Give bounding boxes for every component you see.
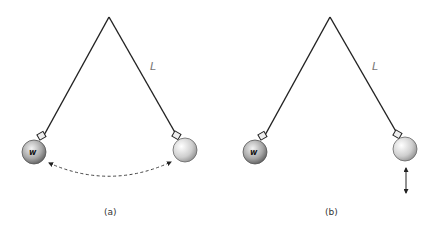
- bob-displaced: [173, 138, 197, 162]
- panel-caption: (b): [325, 207, 338, 217]
- bob-connector: [393, 130, 402, 139]
- bob-connector: [172, 131, 181, 140]
- length-label: L: [372, 60, 378, 73]
- panel-b: L w (b): [243, 17, 417, 217]
- string-right: [330, 17, 398, 135]
- length-label: L: [150, 60, 156, 73]
- string-right: [109, 17, 177, 136]
- swing-arc-arrow: [49, 162, 171, 176]
- panel-a: L w (a): [22, 17, 197, 217]
- string-left: [43, 17, 109, 137]
- bob-displaced: [393, 137, 417, 161]
- panel-caption: (a): [104, 207, 117, 217]
- pendulum-figure: L w (a) L w (b): [0, 0, 437, 234]
- string-left: [264, 17, 330, 137]
- bob-weight-label: w: [29, 148, 37, 157]
- bob-weight-label: w: [250, 148, 258, 157]
